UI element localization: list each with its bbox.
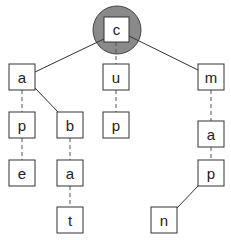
node-m: m	[198, 64, 224, 90]
node-p-right: p	[198, 160, 224, 186]
node-label: c	[113, 21, 121, 38]
node-u: u	[103, 64, 129, 90]
edge-a-b	[35, 88, 58, 112]
node-p: p	[9, 112, 35, 138]
node-a-lower: a	[57, 160, 83, 186]
node-label: p	[18, 117, 26, 134]
node-label: e	[18, 165, 26, 182]
node-label: a	[207, 126, 216, 143]
node-t: t	[57, 207, 83, 233]
node-label: a	[18, 69, 27, 86]
node-label: n	[160, 212, 168, 229]
node-a: a	[9, 64, 35, 90]
node-label: a	[66, 165, 75, 182]
node-n: n	[151, 207, 177, 233]
node-b: b	[57, 112, 83, 138]
trie-diagram: c a u m p b p a e a p t	[0, 0, 231, 240]
node-label: u	[112, 69, 120, 86]
edge-p-n	[177, 185, 199, 208]
edge-c-a	[35, 38, 106, 72]
node-label: b	[66, 117, 74, 134]
node-label: m	[205, 69, 218, 86]
edge-c-m	[129, 36, 198, 70]
node-p-middle: p	[103, 112, 129, 138]
node-e: e	[9, 160, 35, 186]
node-a-right: a	[198, 121, 224, 147]
node-label: p	[112, 117, 120, 134]
node-c: c	[104, 17, 129, 42]
node-label: p	[207, 165, 215, 182]
